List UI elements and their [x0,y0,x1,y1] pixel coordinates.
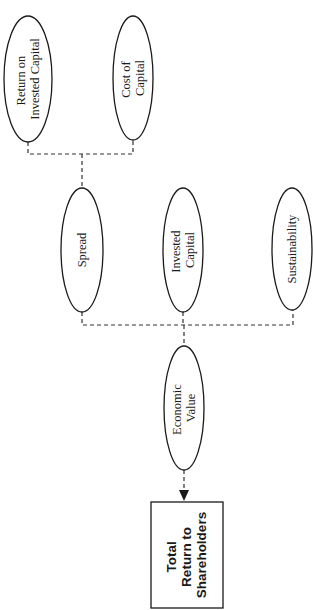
node-label-line: Total [164,541,179,572]
node-label-line: Cost of [119,60,133,97]
svg-text:Spread: Spread [75,232,89,267]
node-label-line: Sustainability [285,214,299,284]
node-economic-value: Economic Value [164,346,204,470]
node-label-line: Economic [170,384,184,435]
node-label-line: Return on [14,55,28,105]
arrowhead-icon [179,490,189,501]
node-label-line: Value [184,393,198,422]
svg-text:Cost of Capital: Cost of Capital [119,58,147,98]
connector-roic-coc-to-spread [28,140,133,188]
node-label-line: Capital [183,231,197,268]
node-label-line: Spread [75,232,89,267]
node-sustainability: Sustainability [272,188,312,310]
arrow-economic-value-to-tsr [179,470,189,501]
svg-text:Invested Capital: Invested Capital [169,227,197,272]
node-label-line: Invested [169,230,183,273]
svg-text:Sustainability: Sustainability [285,214,299,284]
node-total-return-to-shareholders: Total Return to Shareholders [151,502,223,608]
node-invested-capital: Invested Capital [163,188,203,312]
node-label-line: Invested Capital [28,38,42,120]
value-driver-diagram: Return on Invested Capital Cost of Capit… [0,0,313,610]
node-cost-of-capital: Cost of Capital [113,16,153,140]
node-label-line: Capital [133,59,147,96]
node-return-on-invested-capital: Return on Invested Capital [4,16,52,142]
node-label-line: Return to [179,527,194,587]
node-spread: Spread [61,188,103,312]
connector-drivers-to-economic-value [82,310,293,346]
node-label-line: Shareholders [194,512,209,598]
